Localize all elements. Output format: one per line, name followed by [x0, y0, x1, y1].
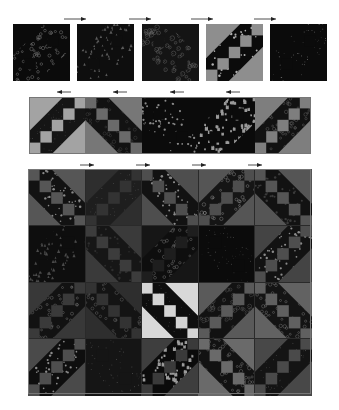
grid-block-r1-c5 — [254, 169, 312, 227]
grid-block-r4-c3 — [141, 338, 199, 396]
middle-strip-block-2 — [85, 97, 142, 154]
grid-block-r4-c2 — [85, 338, 143, 396]
top-row-block-5 — [270, 24, 327, 81]
grid-block-r1-c3 — [141, 169, 199, 227]
middle-strip-block-3 — [142, 97, 199, 154]
grid-block-r1-c1 — [28, 169, 86, 227]
grid-block-r1-c2 — [85, 169, 143, 227]
grid-block-r3-c2 — [85, 282, 143, 340]
middle-strip-block-1 — [29, 97, 86, 154]
grid-block-r2-c5 — [254, 225, 312, 283]
grid-block-r4-c5 — [254, 338, 312, 396]
arrow-right-icon — [136, 163, 150, 167]
grid-block-r2-c2 — [85, 225, 143, 283]
arrow-right-icon — [192, 163, 206, 167]
grid-seam-horizontal — [28, 282, 311, 283]
grid-block-r3-c3 — [141, 282, 199, 340]
middle-strip-block-4 — [198, 97, 255, 154]
grid-seam-horizontal — [28, 338, 311, 339]
arrow-right-icon — [80, 163, 94, 167]
arrow-right-icon — [64, 17, 86, 21]
grid-block-r4-c4 — [198, 338, 256, 396]
grid-block-r2-c3 — [141, 225, 199, 283]
grid-block-r3-c1 — [28, 282, 86, 340]
arrow-left-icon — [113, 90, 127, 94]
grid-block-r3-c4 — [198, 282, 256, 340]
top-row-block-4 — [206, 24, 263, 81]
grid-block-r1-c4 — [198, 169, 256, 227]
grid-seam-horizontal — [28, 225, 311, 226]
arrow-left-icon — [170, 90, 184, 94]
arrow-right-icon — [191, 17, 213, 21]
grid-block-r2-c1 — [28, 225, 86, 283]
arrow-right-icon — [254, 17, 276, 21]
top-row-block-3 — [142, 24, 199, 81]
grid-block-r3-c5 — [254, 282, 312, 340]
arrow-left-icon — [57, 90, 71, 94]
middle-strip-block-5 — [255, 97, 311, 154]
top-row-block-1 — [13, 24, 70, 81]
grid-block-r2-c4 — [198, 225, 256, 283]
top-row-block-2 — [77, 24, 134, 81]
arrow-right-icon — [248, 163, 262, 167]
arrow-left-icon — [226, 90, 240, 94]
grid-block-r4-c1 — [28, 338, 86, 396]
arrow-right-icon — [129, 17, 151, 21]
